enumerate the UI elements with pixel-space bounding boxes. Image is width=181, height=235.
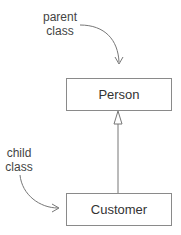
- child-annotation-line-1: child: [0, 146, 38, 160]
- class-name-person: Person: [98, 87, 139, 102]
- child-annotation-arrow: [20, 175, 59, 212]
- generalization-arrow: [114, 111, 122, 193]
- parent-annotation-line-2: class: [35, 24, 85, 38]
- parent-annotation-line-1: parent: [35, 10, 85, 24]
- class-box-customer: Customer: [66, 193, 172, 226]
- parent-class-annotation: parent class: [35, 10, 85, 38]
- child-annotation-line-2: class: [0, 160, 38, 174]
- parent-annotation-arrow: [80, 25, 123, 64]
- class-box-person: Person: [66, 78, 172, 111]
- child-class-annotation: child class: [0, 146, 38, 174]
- class-name-customer: Customer: [91, 202, 147, 217]
